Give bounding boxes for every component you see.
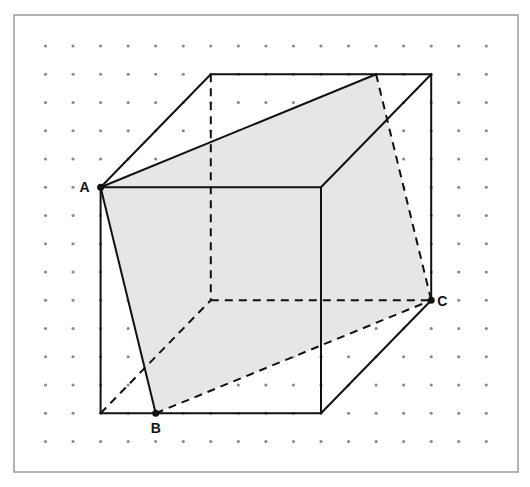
grid-dot [71,440,74,443]
point-b [152,410,159,417]
grid-dot [457,242,460,245]
grid-dot [71,270,74,273]
grid-dot [99,157,102,160]
grid-dot [71,299,74,302]
grid-dot [44,412,47,415]
point-a-label: A [80,179,90,195]
grid-dot [44,270,47,273]
grid-dot [292,44,295,47]
grid-dot [485,270,488,273]
grid-dot [71,44,74,47]
grid-dot [457,129,460,132]
grid-dot [292,440,295,443]
grid-dot [264,440,267,443]
grid-dot [44,157,47,160]
grid-dot [237,440,240,443]
grid-dot [182,44,185,47]
grid-dot [127,73,130,76]
grid-dot [71,412,74,415]
grid-dot [457,186,460,189]
grid-dot [485,214,488,217]
grid-dot [44,73,47,76]
grid-dot [485,242,488,245]
grid-dot [44,129,47,132]
grid-dot [99,101,102,104]
grid-dot [319,44,322,47]
grid-dot [485,383,488,386]
grid-dot [485,299,488,302]
grid-dot [347,440,350,443]
grid-dot [375,440,378,443]
grid-dot [71,157,74,160]
grid-dot [457,157,460,160]
grid-dot [127,440,130,443]
grid-dot [44,101,47,104]
grid-dot [485,440,488,443]
grid-dot [264,383,267,386]
grid-dot [347,355,350,358]
grid-dot [375,412,378,415]
grid-dot [237,101,240,104]
grid-dot [237,44,240,47]
grid-dot [44,242,47,245]
grid-dot [402,355,405,358]
grid-dot [71,129,74,132]
grid-dot [430,383,433,386]
grid-dot [71,73,74,76]
grid-dot [485,412,488,415]
grid-dot [457,383,460,386]
grid-dot [71,186,74,189]
grid-dot [99,73,102,76]
grid-dot [319,440,322,443]
grid-dot [71,242,74,245]
grid-dot [182,440,185,443]
grid-dot [485,157,488,160]
grid-dot [44,186,47,189]
grid-dot [127,355,130,358]
grid-dot [457,270,460,273]
grid-dot [44,327,47,330]
grid-dot [347,412,350,415]
grid-dot [457,299,460,302]
grid-dot [292,383,295,386]
grid-dot [430,44,433,47]
grid-dot [44,44,47,47]
grid-dot [375,383,378,386]
grid-dot [127,383,130,386]
grid-dot [485,355,488,358]
grid-dot [402,440,405,443]
grid-dot [127,129,130,132]
grid-dot [44,355,47,358]
grid-dot [154,44,157,47]
grid-dot [485,44,488,47]
grid-dot [44,440,47,443]
grid-dot [264,101,267,104]
grid-dot [71,355,74,358]
grid-dot [430,327,433,330]
grid-dot [154,440,157,443]
grid-dot [457,440,460,443]
grid-dot [71,101,74,104]
grid-dot [457,355,460,358]
grid-dot [127,327,130,330]
grid-dot [457,101,460,104]
grid-dot [182,129,185,132]
grid-dot [44,299,47,302]
point-c [428,297,435,304]
grid-dot [127,44,130,47]
grid-dot [182,73,185,76]
grid-dot [485,186,488,189]
grid-dot [99,129,102,132]
grid-dot [402,412,405,415]
grid-dot [292,101,295,104]
grid-dot [430,412,433,415]
grid-dot [485,73,488,76]
grid-dot [99,44,102,47]
grid-dot [44,214,47,217]
grid-dot [375,327,378,330]
grid-dot [347,44,350,47]
grid-dot [154,73,157,76]
grid-dot [430,440,433,443]
point-a [97,184,104,191]
grid-dot [375,44,378,47]
